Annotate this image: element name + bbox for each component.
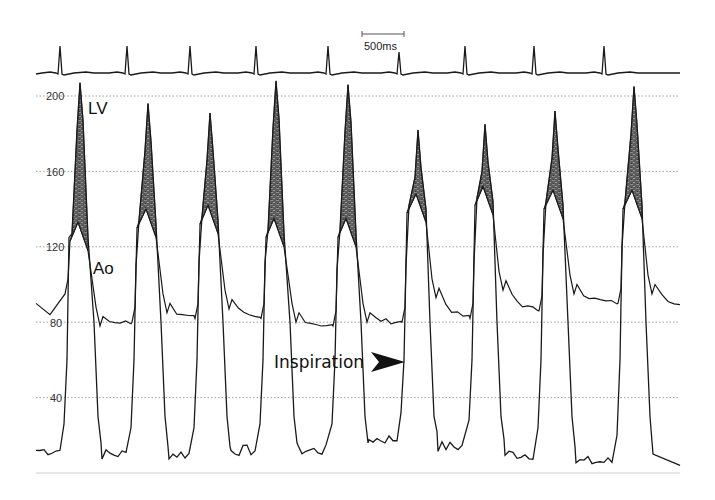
inspiration-annotation: Inspiration bbox=[274, 352, 405, 372]
tick-120: 120 bbox=[46, 241, 64, 253]
scale-bar-label: 500ms bbox=[364, 40, 398, 52]
ecg-trace bbox=[36, 46, 680, 75]
arrow-right-icon bbox=[371, 352, 405, 372]
tick-200: 200 bbox=[46, 90, 64, 102]
tick-80: 80 bbox=[50, 317, 62, 329]
tick-160: 160 bbox=[46, 166, 64, 178]
y-axis-ticks: 200 160 120 80 40 bbox=[46, 90, 64, 404]
pressure-chart: 200 160 120 80 40 500ms LV Ao Inspiratio… bbox=[0, 0, 715, 500]
inspiration-label: Inspiration bbox=[274, 352, 364, 372]
aortic-pressure-trace bbox=[36, 186, 680, 326]
lv-label: LV bbox=[88, 99, 108, 118]
lv-pressure-trace bbox=[36, 81, 680, 466]
tick-40: 40 bbox=[50, 392, 62, 404]
ao-label: Ao bbox=[93, 259, 114, 278]
scale-bar: 500ms bbox=[362, 31, 404, 52]
